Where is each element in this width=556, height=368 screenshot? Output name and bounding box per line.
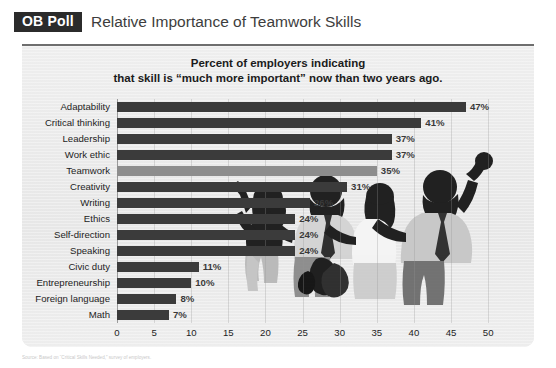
bar-self-direction [117, 230, 295, 241]
bar-row: Self-direction24% [117, 227, 503, 243]
bar-rows: Adaptability47%Critical thinking41%Leade… [117, 99, 503, 323]
header: OB Poll Relative Importance of Teamwork … [14, 11, 361, 32]
bar-row: Entrepreneurship10% [117, 275, 503, 291]
plot-area: Adaptability47%Critical thinking41%Leade… [117, 99, 503, 323]
x-tick-15: 15 [223, 327, 234, 338]
x-tick-30: 30 [334, 327, 345, 338]
page-title: Relative Importance of Teamwork Skills [91, 13, 361, 30]
value-label-ethics: 24% [299, 211, 318, 227]
bar-writing [117, 198, 310, 209]
bar-teamwork [117, 166, 377, 177]
category-label-adaptability: Adaptability [60, 99, 110, 115]
category-label-math: Math [89, 307, 110, 323]
category-label-ethics: Ethics [84, 211, 110, 227]
category-label-foreign-language: Foreign language [35, 291, 110, 307]
x-tick-40: 40 [409, 327, 420, 338]
bar-ethics [117, 214, 295, 225]
ob-poll-badge: OB Poll [14, 12, 82, 32]
category-label-speaking: Speaking [70, 243, 110, 259]
bar-row: Foreign language8% [117, 291, 503, 307]
source-note: Source: Based on “Critical Skills Needed… [22, 355, 522, 361]
value-label-writing: 26% [314, 195, 333, 211]
bar-row: Math7% [117, 307, 503, 323]
value-label-entrepreneurship: 10% [195, 275, 214, 291]
value-label-adaptability: 47% [470, 99, 489, 115]
bar-foreign-language [117, 294, 176, 305]
x-tick-50: 50 [483, 327, 494, 338]
category-label-leadership: Leadership [63, 131, 110, 147]
bar-creativity [117, 182, 347, 193]
x-tick-45: 45 [446, 327, 457, 338]
value-label-foreign-language: 8% [180, 291, 194, 307]
category-label-writing: Writing [80, 195, 110, 211]
category-label-critical-thinking: Critical thinking [45, 115, 110, 131]
bar-civic-duty [117, 262, 199, 273]
value-label-critical-thinking: 41% [425, 115, 444, 131]
chart-title-line-2: that skill is “much more important” now … [22, 71, 534, 86]
bar-critical-thinking [117, 118, 421, 129]
bar-row: Teamwork35% [117, 163, 503, 179]
bar-row: Creativity31% [117, 179, 503, 195]
bar-leadership [117, 134, 392, 145]
x-tick-5: 5 [151, 327, 156, 338]
x-tick-20: 20 [260, 327, 271, 338]
category-label-entrepreneurship: Entrepreneurship [36, 275, 110, 291]
category-label-self-direction: Self-direction [54, 227, 110, 243]
value-label-work-ethic: 37% [396, 147, 415, 163]
bar-row: Writing26% [117, 195, 503, 211]
bar-entrepreneurship [117, 278, 191, 289]
value-label-teamwork: 35% [381, 163, 400, 179]
value-label-speaking: 24% [299, 243, 318, 259]
chart-title-line-1: Percent of employers indicating [22, 56, 534, 71]
bar-row: Critical thinking41% [117, 115, 503, 131]
x-tick-0: 0 [114, 327, 119, 338]
category-label-work-ethic: Work ethic [65, 147, 110, 163]
bar-row: Leadership37% [117, 131, 503, 147]
chart-panel: Percent of employers indicating that ski… [22, 44, 534, 347]
x-tick-25: 25 [297, 327, 308, 338]
bar-adaptability [117, 102, 466, 113]
bar-row: Adaptability47% [117, 99, 503, 115]
category-label-creativity: Creativity [70, 179, 110, 195]
poll-infographic: OB Poll Relative Importance of Teamwork … [0, 0, 556, 368]
value-label-math: 7% [173, 307, 187, 323]
category-label-civic-duty: Civic duty [68, 259, 110, 275]
bar-row: Ethics24% [117, 211, 503, 227]
bar-math [117, 310, 169, 321]
value-label-civic-duty: 11% [203, 259, 222, 275]
category-label-teamwork: Teamwork [66, 163, 110, 179]
bar-speaking [117, 246, 295, 257]
bar-row: Speaking24% [117, 243, 503, 259]
value-label-self-direction: 24% [299, 227, 318, 243]
x-tick-35: 35 [371, 327, 382, 338]
x-axis-tick-labels: 05101520253035404550 [117, 327, 503, 341]
chart-title: Percent of employers indicating that ski… [22, 56, 534, 86]
value-label-leadership: 37% [396, 131, 415, 147]
bar-work-ethic [117, 150, 392, 161]
bar-row: Civic duty11% [117, 259, 503, 275]
bar-row: Work ethic37% [117, 147, 503, 163]
x-tick-10: 10 [186, 327, 197, 338]
value-label-creativity: 31% [351, 179, 370, 195]
